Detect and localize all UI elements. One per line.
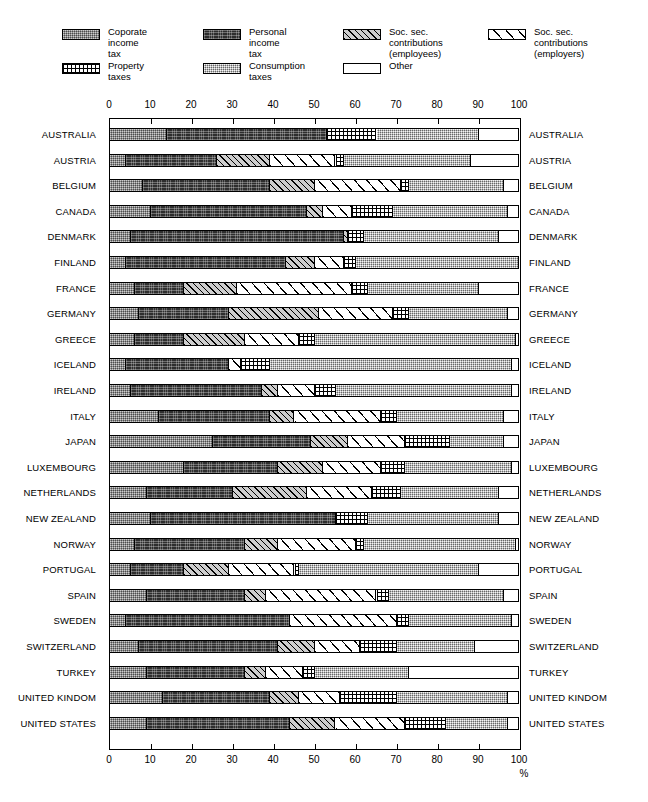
- bar-row: [109, 128, 519, 141]
- country-label-left: UNITED STATES: [0, 717, 102, 730]
- bar-segment-other: [504, 411, 519, 422]
- stacked-bar[interactable]: [109, 307, 519, 320]
- country-label-left: CANADA: [0, 205, 102, 218]
- bar-segment-other: [512, 359, 519, 370]
- stacked-bar[interactable]: [109, 358, 519, 371]
- stacked-bar[interactable]: [109, 230, 519, 243]
- stacked-bar[interactable]: [109, 614, 519, 627]
- x-tick-mark: [397, 119, 398, 124]
- country-label-left: LUXEMBOURG: [0, 461, 102, 474]
- bar-segment-personal: [126, 155, 216, 166]
- bar-segment-personal: [131, 564, 184, 575]
- bar-segment-ss-employees: [270, 411, 295, 422]
- bar-segment-other: [512, 615, 519, 626]
- bar-segment-personal: [159, 411, 270, 422]
- bar-segment-ss-employees: [233, 487, 307, 498]
- stacked-bar[interactable]: [109, 410, 519, 423]
- stacked-bar[interactable]: [109, 538, 519, 551]
- stacked-bar[interactable]: [109, 282, 519, 295]
- stacked-bar[interactable]: [109, 205, 519, 218]
- bar-segment-corporate: [110, 564, 131, 575]
- bar-segment-other: [516, 539, 519, 550]
- x-tick-mark: [438, 744, 439, 749]
- bar-row: [109, 307, 519, 320]
- stacked-bar[interactable]: [109, 563, 519, 576]
- bar-segment-personal: [151, 206, 307, 217]
- bar-segment-personal: [135, 283, 184, 294]
- bar-segment-consumption: [377, 129, 480, 140]
- stacked-bar[interactable]: [109, 333, 519, 346]
- bar-segment-consumption: [356, 257, 519, 268]
- bar-segment-personal: [131, 231, 344, 242]
- stacked-bar[interactable]: [109, 640, 519, 653]
- bar-segment-corporate: [110, 206, 151, 217]
- bar-segment-corporate: [110, 667, 147, 678]
- x-tick-mark: [233, 744, 234, 749]
- x-tick-label-top: 70: [381, 99, 411, 110]
- bar-segment-consumption: [315, 667, 409, 678]
- stacked-bar[interactable]: [109, 717, 519, 730]
- bar-segment-personal: [147, 590, 245, 601]
- stacked-bar[interactable]: [109, 179, 519, 192]
- bar-segment-personal: [167, 129, 327, 140]
- country-label-left: BELGIUM: [0, 179, 102, 192]
- bar-segment-corporate: [110, 641, 139, 652]
- country-label-right: ICELAND: [529, 358, 644, 371]
- bar-segment-ss-employees: [245, 539, 278, 550]
- bar-segment-other: [504, 180, 519, 191]
- stacked-bar[interactable]: [109, 512, 519, 525]
- bar-segment-corporate: [110, 129, 167, 140]
- x-tick-mark: [151, 119, 152, 124]
- bar-segment-ss-employers: [295, 411, 381, 422]
- bar-segment-corporate: [110, 718, 147, 729]
- stacked-bar[interactable]: [109, 435, 519, 448]
- stacked-bar[interactable]: [109, 486, 519, 499]
- stacked-bar[interactable]: [109, 461, 519, 474]
- bar-segment-ss-employers: [278, 385, 315, 396]
- bar-segment-corporate: [110, 513, 151, 524]
- stacked-bar[interactable]: [109, 666, 519, 679]
- bar-segment-ss-employees: [290, 718, 335, 729]
- bar-segment-property: [299, 334, 315, 345]
- stacked-bar[interactable]: [109, 256, 519, 269]
- stacked-bar[interactable]: [109, 691, 519, 704]
- stacked-bar[interactable]: [109, 154, 519, 167]
- bar-segment-other: [479, 564, 519, 575]
- bar-row: [109, 179, 519, 192]
- bar-segment-other: [479, 129, 519, 140]
- x-tick-mark: [151, 744, 152, 749]
- bar-segment-property: [356, 539, 364, 550]
- bar-segment-property: [352, 206, 393, 217]
- bar-row: [109, 358, 519, 371]
- bar-row: [109, 640, 519, 653]
- country-label-left: UNITED KINDOM: [0, 691, 102, 704]
- country-label-left: NEW ZEALAND: [0, 512, 102, 525]
- x-tick-mark: [192, 119, 193, 124]
- bar-segment-consumption: [450, 436, 503, 447]
- bar-segment-ss-employees: [270, 692, 299, 703]
- bar-segment-ss-employees: [278, 641, 315, 652]
- country-label-left: FINLAND: [0, 256, 102, 269]
- bar-row: [109, 589, 519, 602]
- bar-segment-consumption: [270, 359, 512, 370]
- country-label-left: SPAIN: [0, 589, 102, 602]
- country-label-left: IRELAND: [0, 384, 102, 397]
- bar-segment-corporate: [110, 462, 184, 473]
- x-tick-label-top: 100: [504, 99, 534, 110]
- bar-segment-corporate: [110, 436, 213, 447]
- bar-segment-ss-employees: [184, 564, 229, 575]
- bar-segment-corporate: [110, 411, 159, 422]
- bar-row: [109, 230, 519, 243]
- bar-segment-other: [508, 308, 519, 319]
- stacked-bar[interactable]: [109, 384, 519, 397]
- bar-segment-property: [303, 667, 315, 678]
- stacked-bar[interactable]: [109, 589, 519, 602]
- bar-segment-personal: [163, 692, 270, 703]
- bar-segment-personal: [143, 180, 270, 191]
- x-tick-label-top: 20: [176, 99, 206, 110]
- country-label-left: DENMARK: [0, 230, 102, 243]
- bar-segment-ss-employees: [245, 590, 266, 601]
- bar-segment-consumption: [401, 487, 499, 498]
- stacked-bar[interactable]: [109, 128, 519, 141]
- bar-segment-personal: [135, 539, 246, 550]
